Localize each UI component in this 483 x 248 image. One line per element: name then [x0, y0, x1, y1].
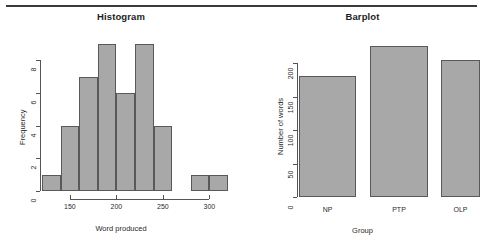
barplot-y-axis-line: [297, 63, 298, 197]
histogram-y-tick: [36, 158, 40, 159]
histogram-plot-area: 02468150200250300: [0, 0, 242, 248]
histogram-x-tick: [70, 195, 71, 199]
barplot-category-label: NP: [308, 206, 348, 213]
histogram-x-tick-label: 300: [194, 203, 224, 210]
histogram-y-tick: [36, 191, 40, 192]
barplot-bar: [370, 46, 428, 197]
barplot-y-tick: [293, 197, 297, 198]
histogram-x-tick-label: 200: [101, 203, 131, 210]
histogram-x-tick: [163, 195, 164, 199]
histogram-bar: [42, 175, 61, 191]
barplot-y-tick-label: 50: [287, 163, 294, 185]
histogram-bar: [61, 126, 80, 191]
histogram-bar: [79, 77, 98, 191]
histogram-bar: [209, 175, 228, 191]
barplot-y-tick: [293, 63, 297, 64]
histogram-bar: [154, 126, 173, 191]
histogram-y-tick-label: 4: [30, 125, 37, 145]
barplot-plot-area: 050100150200NPPTPOLP: [242, 0, 483, 248]
histogram-y-tick-label: 8: [30, 60, 37, 80]
histogram-y-tick: [36, 126, 40, 127]
histogram-bar: [116, 93, 135, 191]
barplot-y-tick: [293, 130, 297, 131]
barplot-category-label: OLP: [441, 206, 481, 213]
histogram-panel: Histogram Frequency Word produced 024681…: [0, 0, 242, 248]
histogram-x-tick-label: 250: [148, 203, 178, 210]
histogram-bar: [135, 44, 154, 191]
barplot-y-tick-label: 0: [287, 197, 294, 219]
barplot-y-tick: [293, 97, 297, 98]
histogram-x-axis-line: [70, 199, 210, 200]
barplot-panel: Barplot Number of words Group 0501001502…: [242, 0, 483, 248]
barplot-bar: [441, 60, 480, 197]
barplot-y-tick-label: 100: [287, 130, 294, 152]
histogram-y-tick-label: 6: [30, 93, 37, 113]
histogram-x-tick-label: 150: [55, 203, 85, 210]
barplot-category-label: PTP: [379, 206, 419, 213]
barplot-bar: [299, 76, 356, 197]
histogram-bar: [191, 175, 210, 191]
barplot-y-tick: [293, 164, 297, 165]
histogram-x-tick: [116, 195, 117, 199]
histogram-y-tick-label: 0: [30, 191, 37, 211]
barplot-y-tick-label: 200: [287, 63, 294, 85]
histogram-y-axis-line: [40, 60, 41, 191]
histogram-y-tick: [36, 60, 40, 61]
histogram-y-tick-label: 2: [30, 158, 37, 178]
histogram-bar: [98, 44, 117, 191]
barplot-y-tick-label: 150: [287, 96, 294, 118]
histogram-x-tick: [209, 195, 210, 199]
histogram-y-tick: [36, 93, 40, 94]
